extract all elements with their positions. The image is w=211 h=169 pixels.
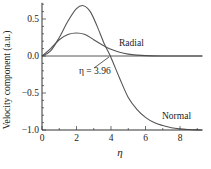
x-tick-label: 2 [74,133,79,143]
y-tick-label: 0.0 [27,51,39,61]
x-tick-label: 8 [178,133,183,143]
y-tick-label: −0.5 [22,88,39,98]
x-tick-label: 0 [40,133,45,143]
x-tick-label: 6 [143,133,148,143]
y-tick-label: 0.5 [27,14,39,24]
x-tick-label: 4 [109,133,114,143]
normal-label: Normal [162,111,191,121]
axes: −1.0−0.50.00.502468 [22,3,203,143]
y-axis-label: Velocity component (a.u.) [2,31,13,130]
radial-label: Radial [119,38,144,48]
x-axis-label: η [117,146,122,158]
velocity-chart: −1.0−0.50.00.502468 Velocity component (… [0,0,211,169]
y-tick-label: −1.0 [22,125,39,135]
